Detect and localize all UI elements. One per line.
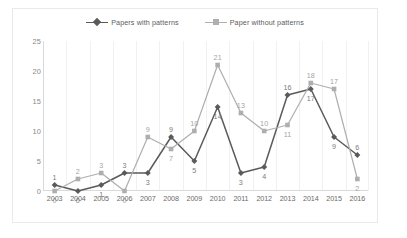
legend-marker-square-icon [205, 18, 227, 27]
x-axis-tick-label: 2009 [187, 194, 203, 203]
y-axis-tick-label: 10 [32, 127, 41, 136]
data-point-label: 11 [284, 130, 292, 139]
chart-container: Papers with patterns Paper without patte… [12, 8, 378, 223]
data-point-label: 6 [355, 143, 359, 152]
data-point-label: 3 [146, 178, 150, 187]
x-axis-tick-label: 2003 [47, 194, 63, 203]
data-point-label: 1 [53, 173, 57, 182]
data-point-label: 3 [99, 161, 103, 170]
y-axis-tick-label: 15 [32, 97, 41, 106]
data-point-label: 2 [76, 167, 80, 176]
data-point-label: 10 [190, 119, 198, 128]
data-point-label: 9 [146, 125, 150, 134]
plot-area-wrapper: 0510152025 10021330399751014213134101611… [13, 31, 377, 222]
x-axis-tick-label: 2006 [117, 194, 133, 203]
y-axis-tick-label: 20 [32, 67, 41, 76]
x-axis-tick-label: 2016 [350, 194, 366, 203]
x-axis-tick-label: 2014 [303, 194, 319, 203]
legend-label: Paper without patterns [230, 18, 304, 27]
data-labels: 10021330399751014213134101611171891762 [43, 41, 369, 191]
y-axis: 0510152025 [19, 41, 41, 191]
data-point-label: 9 [332, 142, 336, 151]
x-axis-tick-label: 2011 [233, 194, 248, 203]
data-point-label: 17 [330, 77, 338, 86]
data-point-label: 14 [214, 112, 222, 121]
y-axis-tick-label: 0 [37, 187, 41, 196]
y-axis-tick-label: 5 [37, 157, 41, 166]
data-point-label: 21 [214, 53, 222, 62]
data-point-label: 3 [239, 178, 243, 187]
legend-label: Papers with patterns [111, 18, 179, 27]
x-axis-tick-label: 2008 [163, 194, 179, 203]
x-axis-tick-label: 2010 [210, 194, 226, 203]
x-axis-tick-label: 2007 [140, 194, 156, 203]
legend-marker-diamond-icon [86, 18, 108, 27]
x-axis: 2003200420052006200720082009201020112012… [43, 194, 369, 210]
y-axis-tick-label: 25 [32, 37, 41, 46]
x-axis-tick-label: 2015 [326, 194, 342, 203]
data-point-label: 13 [237, 101, 245, 110]
data-point-label: 9 [169, 125, 173, 134]
data-point-label: 10 [260, 119, 268, 128]
data-point-label: 3 [122, 161, 126, 170]
data-point-label: 4 [262, 172, 266, 181]
data-point-label: 7 [169, 154, 173, 163]
plot-area: 10021330399751014213134101611171891762 [43, 41, 369, 191]
x-axis-tick-label: 2004 [70, 194, 86, 203]
data-point-label: 16 [283, 83, 291, 92]
data-point-label: 5 [192, 166, 196, 175]
data-point-label: 2 [355, 184, 359, 193]
legend-item-papers-with-patterns[interactable]: Papers with patterns [86, 18, 179, 27]
chart-legend: Papers with patterns Paper without patte… [13, 13, 377, 31]
legend-item-paper-without-patterns[interactable]: Paper without patterns [205, 18, 304, 27]
x-axis-tick-label: 2012 [256, 194, 272, 203]
data-point-label: 18 [307, 71, 315, 80]
data-point-label: 17 [307, 94, 315, 103]
x-axis-tick-label: 2013 [280, 194, 296, 203]
x-axis-tick-label: 2005 [93, 194, 109, 203]
